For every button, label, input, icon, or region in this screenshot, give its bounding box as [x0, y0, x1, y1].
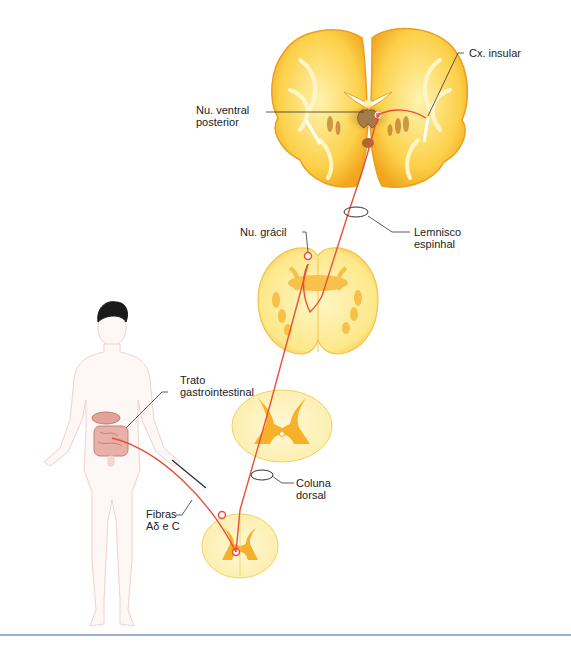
- label-gi-tract: Tratogastrointestinal: [180, 374, 254, 398]
- brain-coronal-section: [272, 29, 468, 188]
- bottom-divider: [0, 634, 571, 636]
- spinal-lemniscus-marker: [344, 207, 368, 217]
- medulla-section: [258, 248, 378, 354]
- diagram-canvas: [0, 0, 571, 647]
- dorsal-column-marker: [251, 470, 273, 480]
- label-gracile-nucleus: Nu. grácil: [240, 226, 286, 238]
- visceral-pain-pathway-diagram: Cx. insular Nu. ventralposterior Lemnisc…: [0, 0, 571, 647]
- label-fibers: FibrasAδ e C: [146, 508, 180, 532]
- lower-spinal-cord-section: [202, 514, 278, 578]
- stomach: [92, 412, 120, 424]
- gracile-neuron: [305, 253, 312, 260]
- fiber-bundle-marker: [172, 460, 206, 488]
- human-figure: [44, 302, 180, 626]
- label-insular-cortex: Cx. insular: [469, 47, 521, 59]
- label-spinal-lemniscus: Lemniscoespinhal: [414, 226, 461, 250]
- label-ventral-posterior-nucleus: Nu. ventralposterior: [196, 104, 249, 128]
- upper-spinal-cord-section: [232, 390, 332, 462]
- dorsal-root-ganglion: [219, 512, 226, 519]
- right-hemisphere: [370, 29, 467, 188]
- label-dorsal-column: Colunadorsal: [296, 477, 331, 501]
